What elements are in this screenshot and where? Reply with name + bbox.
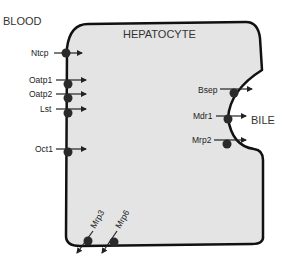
svg-text:Mdr1: Mdr1 <box>193 111 213 121</box>
hepatocyte-transporter-diagram: BLOOD HEPATOCYTE BILE Ntcp Oatp1 Oatp2 L… <box>0 0 288 268</box>
bile-label: BILE <box>251 114 275 126</box>
mrp6-transporter-icon <box>110 238 119 247</box>
lst-transporter-icon <box>64 109 73 118</box>
bsep-transporter-icon <box>230 89 239 98</box>
oatp1-transporter-icon <box>64 80 73 89</box>
ntcp-transporter-icon <box>62 49 71 58</box>
hepatocyte-label: HEPATOCYTE <box>123 28 196 40</box>
oct1-transporter-icon <box>64 148 73 157</box>
blood-label: BLOOD <box>3 15 42 27</box>
svg-text:Mrp2: Mrp2 <box>192 135 212 145</box>
svg-text:Oct1: Oct1 <box>35 144 53 154</box>
mdr1-transporter-icon <box>224 115 233 124</box>
mrp2-transporter-icon <box>223 140 232 149</box>
svg-text:Ntcp: Ntcp <box>31 48 49 58</box>
svg-text:Bsep: Bsep <box>198 85 218 95</box>
mrp3-transporter-icon <box>84 237 93 246</box>
svg-text:Oatp1: Oatp1 <box>29 75 52 85</box>
svg-text:Lst: Lst <box>40 104 52 114</box>
svg-text:Oatp2: Oatp2 <box>29 89 52 99</box>
oatp2-transporter-icon <box>64 94 73 103</box>
